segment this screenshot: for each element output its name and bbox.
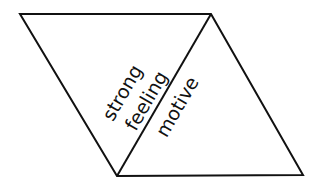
diagram-canvas: strong feeling motive xyxy=(0,0,318,186)
